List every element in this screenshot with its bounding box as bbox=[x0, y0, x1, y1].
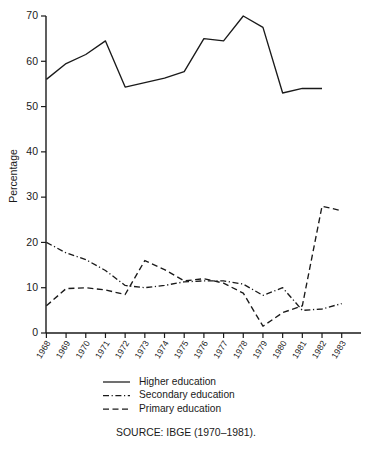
x-tick-label: 1975 bbox=[172, 339, 191, 361]
chart-legend: Higher educationSecondary educationPrima… bbox=[103, 376, 235, 414]
x-tick-label: 1977 bbox=[211, 339, 230, 361]
y-tick-label: 10 bbox=[26, 281, 38, 293]
x-axis-ticks bbox=[46, 333, 341, 338]
x-tick-label: 1981 bbox=[290, 339, 309, 361]
y-axis: 010203040506070 Percentage bbox=[7, 9, 46, 338]
x-tick-label: 1969 bbox=[54, 339, 73, 361]
y-tick-label: 40 bbox=[26, 145, 38, 157]
x-tick-label: 1983 bbox=[329, 339, 348, 361]
y-tick-label: 0 bbox=[32, 326, 38, 338]
y-axis-ticks bbox=[41, 16, 46, 333]
x-tick-label: 1973 bbox=[132, 339, 151, 361]
x-tick-label: 1970 bbox=[73, 339, 92, 361]
y-tick-label: 70 bbox=[26, 9, 38, 21]
x-tick-label: 1976 bbox=[191, 339, 210, 361]
y-tick-label: 60 bbox=[26, 55, 38, 67]
data-series-group bbox=[46, 16, 341, 326]
x-tick-label: 1979 bbox=[251, 339, 270, 361]
x-tick-label: 1971 bbox=[93, 339, 112, 361]
y-axis-tick-labels: 010203040506070 bbox=[26, 9, 38, 338]
x-axis-tick-labels: 1968196919701971197219731974197519761977… bbox=[34, 339, 348, 361]
series-line-higher-education bbox=[46, 16, 322, 93]
x-axis: 1968196919701971197219731974197519761977… bbox=[34, 333, 361, 360]
percentage-by-education-level-line-chart: 010203040506070 Percentage 1968196919701… bbox=[0, 0, 372, 451]
y-tick-label: 30 bbox=[26, 190, 38, 202]
y-tick-label: 50 bbox=[26, 100, 38, 112]
y-axis-title: Percentage bbox=[7, 149, 19, 203]
x-tick-label: 1974 bbox=[152, 339, 171, 361]
x-tick-label: 1972 bbox=[113, 339, 132, 361]
source-note: SOURCE: IBGE (1970–1981). bbox=[116, 427, 256, 438]
x-tick-label: 1968 bbox=[34, 339, 53, 361]
x-tick-label: 1982 bbox=[310, 339, 329, 361]
legend-label-primary-education: Primary education bbox=[139, 403, 221, 414]
x-tick-label: 1978 bbox=[231, 339, 250, 361]
series-line-secondary-education bbox=[46, 242, 341, 310]
legend-label-higher-education: Higher education bbox=[139, 376, 216, 387]
x-tick-label: 1980 bbox=[270, 339, 289, 361]
series-line-primary-education bbox=[46, 206, 341, 326]
chart-figure: 010203040506070 Percentage 1968196919701… bbox=[0, 0, 372, 451]
y-tick-label: 20 bbox=[26, 236, 38, 248]
legend-label-secondary-education: Secondary education bbox=[139, 389, 235, 400]
